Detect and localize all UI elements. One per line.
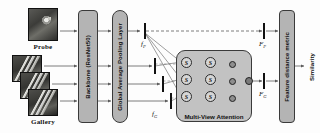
gallery-caption: Gallery xyxy=(20,118,66,126)
backbone-label: Backbone (ResNet50) xyxy=(85,35,91,99)
metric-block: Feature distance metric xyxy=(279,10,295,123)
similarity-output: Similarity xyxy=(305,36,319,98)
F-probe-label: FP xyxy=(259,40,266,49)
gallery-image-thumbnail-3 xyxy=(28,89,58,116)
attention-label: Multi-View Attention xyxy=(177,113,251,120)
attention-node-l2-3: S xyxy=(205,91,216,102)
attention-node-l2-1: S xyxy=(205,57,216,68)
pooling-block: Global Average Pooling Layer xyxy=(112,10,128,123)
multiply-node-2 xyxy=(229,78,236,85)
gallery-image-content-3 xyxy=(29,90,57,115)
feature-bar-probe xyxy=(144,23,146,39)
similarity-label: Similarity xyxy=(309,53,315,81)
probe-image-thumbnail xyxy=(28,8,58,41)
feature-bar-gallery-3 xyxy=(170,93,172,109)
attention-node-l1-1: S xyxy=(181,57,192,68)
multiply-node-1 xyxy=(229,61,236,68)
metric-label: Feature distance metric xyxy=(284,32,290,102)
attention-node-l1-2: S xyxy=(181,74,192,85)
output-feature-bar-gallery xyxy=(263,73,265,89)
backbone-block: Backbone (ResNet50) xyxy=(78,10,98,123)
sum-node xyxy=(245,77,253,85)
probe-caption: Probe xyxy=(20,43,66,51)
f-gallery-label: fG xyxy=(152,110,157,119)
attention-node-l1-3: S xyxy=(181,91,192,102)
F-gallery-label: FG xyxy=(259,90,267,99)
pooling-label: Global Average Pooling Layer xyxy=(117,23,123,111)
figure-root: Probe Gallery Backbone (ResNet50) Global… xyxy=(0,0,320,133)
f-probe-label: fP xyxy=(141,40,146,49)
feature-bar-gallery-2 xyxy=(162,76,164,92)
attention-node-l2-2: S xyxy=(205,74,216,85)
output-feature-bar-probe xyxy=(263,23,265,39)
feature-bar-gallery-1 xyxy=(154,58,156,74)
probe-image-content xyxy=(29,9,57,40)
multiply-node-3 xyxy=(229,95,236,102)
